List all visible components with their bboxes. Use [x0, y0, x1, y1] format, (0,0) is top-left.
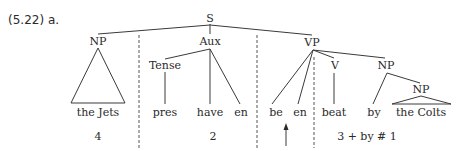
edge-s-branches	[98, 25, 312, 35]
example-label: (5.22) a.	[8, 13, 59, 27]
node-aux: Aux	[198, 35, 221, 48]
leaf-the-colts: the Colts	[396, 106, 446, 119]
leaf-by: by	[367, 106, 381, 119]
edge-aux-en	[210, 49, 240, 104]
edge-np-by	[373, 73, 387, 104]
segment-number-2: 2	[210, 130, 217, 143]
node-np-subject: NP	[89, 35, 107, 48]
segment-number-1: 4	[95, 130, 102, 143]
edge-vp-be	[272, 50, 313, 104]
edge-np-np	[387, 73, 420, 83]
triangle-np-inner	[392, 96, 451, 104]
node-vp: VP	[303, 36, 320, 49]
leaf-have: have	[197, 106, 223, 119]
syntax-tree-diagram: (5.22) a. S NP Aux Tense VP V NP NP the …	[0, 0, 460, 151]
leaf-the-jets: the Jets	[77, 106, 120, 119]
node-np-inner: NP	[412, 83, 430, 96]
node-v: V	[330, 59, 340, 72]
leaf-pres: pres	[153, 106, 178, 119]
node-np-object: NP	[377, 59, 395, 72]
arrow-up-icon	[284, 123, 289, 146]
triangle-np-subject	[71, 48, 125, 103]
node-tense: Tense	[149, 59, 181, 72]
node-s: S	[206, 12, 214, 25]
leaf-beat: beat	[322, 106, 347, 119]
leaf-be: be	[269, 106, 283, 119]
edge-aux-tense	[165, 49, 210, 59]
edge-vp-en	[298, 50, 313, 104]
segment-number-3: 3 + by # 1	[337, 130, 397, 143]
leaf-en-vp: en	[293, 106, 307, 119]
leaf-en-aux: en	[234, 106, 248, 119]
